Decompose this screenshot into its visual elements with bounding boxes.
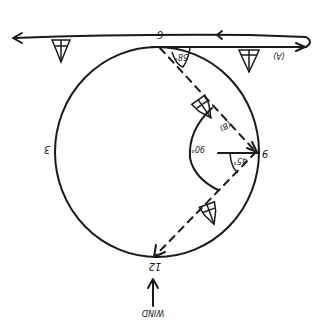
boat-upper-dashed <box>192 95 218 122</box>
clock-label-twelve: 12 <box>149 261 162 272</box>
clock-label-three: 3 <box>44 144 50 155</box>
boat-left-top <box>52 40 70 62</box>
dashed-path-lower <box>155 152 256 256</box>
path-label-b: (B) <box>218 119 233 133</box>
angle-label-top: 58° <box>174 52 188 61</box>
path-label-a: (A) <box>273 51 285 60</box>
boat-right-top <box>239 50 259 72</box>
wind-label: WIND <box>142 308 164 317</box>
angle-label-45: 45° <box>233 156 247 165</box>
sailing-turn-diagram: 6 3 9 12 (A) (B) 58° 45° 90° WIND <box>0 0 323 327</box>
clock-label-six: 6 <box>157 29 163 40</box>
boat-lower-dashed <box>199 202 221 227</box>
clock-label-nine: 9 <box>262 148 268 159</box>
angle-label-90: 90° <box>191 144 205 153</box>
dashed-path-upper <box>160 48 256 152</box>
